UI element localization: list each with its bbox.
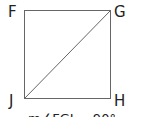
- vertex-label-j: J: [8, 92, 13, 110]
- vertex-label-f: F: [8, 3, 17, 21]
- angle-caption: m∠FGJ = 90°: [28, 111, 116, 117]
- diagonal-jg: [25, 11, 111, 99]
- vertex-label-g: G: [114, 3, 126, 21]
- vertex-label-h: H: [114, 92, 125, 110]
- square-diagram: F G H J m∠FGJ = 90°: [0, 0, 141, 117]
